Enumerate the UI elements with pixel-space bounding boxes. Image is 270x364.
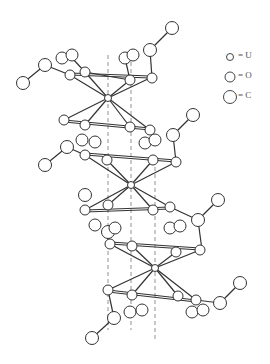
medium-circle-icon <box>224 70 238 84</box>
legend-item-c: = C <box>224 90 270 110</box>
legend-item-u: = U <box>224 50 270 70</box>
legend-item-o: = O <box>224 70 270 90</box>
large-circle-icon <box>223 89 239 105</box>
atoms <box>17 22 247 345</box>
legend-label-c: = C <box>238 90 251 100</box>
small-circle-icon <box>224 50 238 64</box>
legend: = U = O = C <box>224 50 270 110</box>
legend-label-u: = U <box>238 50 252 60</box>
legend-label-o: = O <box>238 70 252 80</box>
